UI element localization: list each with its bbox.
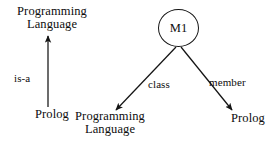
node-programming-language-top: Programming Language xyxy=(8,5,96,31)
node-prolog-bottom-right: Prolog xyxy=(216,112,273,125)
edge-label-member: member xyxy=(209,76,246,88)
node-programming-language-bottom: Programming Language xyxy=(64,110,156,136)
node-m1-label: M1 xyxy=(170,21,187,36)
diagram-canvas: Programming Language Prolog is-a M1 Prog… xyxy=(0,0,273,143)
edge-label-is-a: is-a xyxy=(14,72,30,84)
edge-label-class: class xyxy=(148,78,170,90)
node-m1-circle: M1 xyxy=(158,9,199,47)
